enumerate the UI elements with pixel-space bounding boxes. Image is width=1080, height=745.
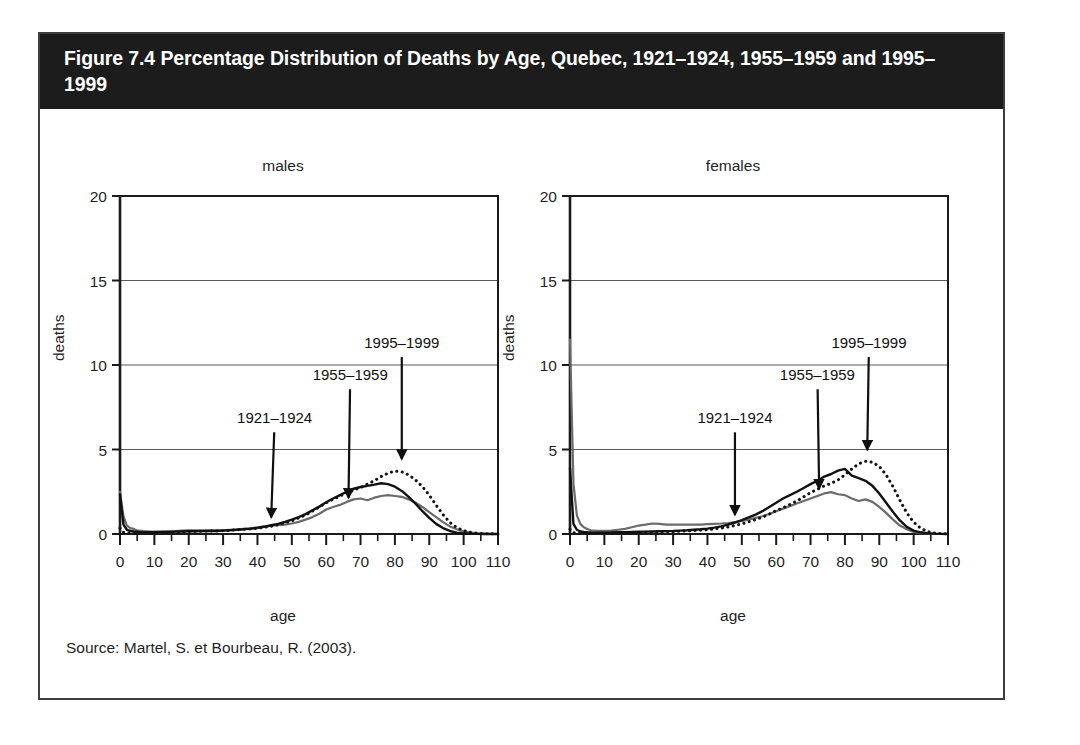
- y-tick-label: 5: [548, 442, 557, 459]
- title-banner: Figure 7.4 Percentage Distribution of De…: [40, 34, 1003, 109]
- y-tick-label: 20: [90, 188, 108, 205]
- x-tick-label: 10: [596, 553, 614, 570]
- x-tick-label: 110: [936, 553, 961, 570]
- x-tick-label: 90: [421, 553, 439, 570]
- source-note: Source: Martel, S. et Bourbeau, R. (2003…: [66, 639, 356, 657]
- x-tick-label: 70: [802, 553, 820, 570]
- chart-panel-females: females deaths age 051015200102030405060…: [508, 129, 958, 629]
- x-tick-label: 10: [146, 553, 164, 570]
- chart-title-males: males: [58, 157, 508, 175]
- x-tick-label: 30: [214, 553, 232, 570]
- annotation-label-1955-1959: 1955–1959: [780, 366, 855, 383]
- annotation-arrow-1955-1959: [818, 389, 820, 488]
- y-tick-label: 15: [540, 273, 557, 290]
- annotation-arrow-1955-1959: [349, 389, 351, 498]
- x-tick-label: 70: [352, 553, 370, 570]
- series-line-1955-1959: [120, 483, 498, 534]
- x-tick-label: 0: [116, 553, 125, 570]
- annotation-label-1995-1999: 1995–1999: [831, 334, 906, 351]
- y-tick-label: 0: [98, 526, 107, 543]
- x-tick-label: 100: [901, 553, 927, 570]
- y-tick-label: 20: [540, 188, 558, 205]
- figure-title: Figure 7.4 Percentage Distribution of De…: [64, 45, 964, 97]
- series-line-1921-1924: [570, 340, 948, 534]
- x-tick-label: 100: [451, 553, 477, 570]
- chart-title-females: females: [508, 157, 958, 175]
- figure-frame: Figure 7.4 Percentage Distribution of De…: [38, 32, 1005, 700]
- series-line-1995-1999: [120, 471, 498, 534]
- annotation-arrow-1995-1999: [867, 357, 869, 450]
- x-tick-label: 80: [836, 553, 854, 570]
- x-tick-label: 110: [486, 553, 511, 570]
- annotation-label-1921-1924: 1921–1924: [697, 409, 772, 426]
- annotation-label-1955-1959: 1955–1959: [313, 366, 388, 383]
- x-tick-label: 90: [871, 553, 889, 570]
- x-tick-label: 40: [249, 553, 267, 570]
- x-tick-label: 50: [733, 553, 751, 570]
- annotation-label-1921-1924: 1921–1924: [237, 409, 312, 426]
- x-tick-label: 30: [664, 553, 682, 570]
- x-tick-label: 20: [630, 553, 648, 570]
- annotation-label-1995-1999: 1995–1999: [364, 334, 439, 351]
- x-axis-label-females: age: [508, 607, 958, 625]
- figure-page: Figure 7.4 Percentage Distribution of De…: [0, 0, 1080, 745]
- plot-area-females: 0510152001020304050607080901001101921–19…: [508, 184, 958, 604]
- x-tick-label: 40: [699, 553, 717, 570]
- y-tick-label: 5: [98, 442, 107, 459]
- x-tick-label: 60: [768, 553, 786, 570]
- x-tick-label: 0: [566, 553, 575, 570]
- y-tick-label: 0: [548, 526, 557, 543]
- y-tick-label: 15: [90, 273, 107, 290]
- x-tick-label: 50: [283, 553, 301, 570]
- series-line-1955-1959: [570, 468, 948, 534]
- chart-panel-males: males deaths age 05101520010203040506070…: [58, 129, 508, 629]
- plot-area-males: 0510152001020304050607080901001101921–19…: [58, 184, 508, 604]
- y-tick-label: 10: [90, 357, 108, 374]
- x-tick-label: 20: [180, 553, 198, 570]
- series-line-1995-1999: [570, 461, 948, 534]
- annotation-arrow-1921-1924: [271, 432, 274, 517]
- x-axis-label-males: age: [58, 607, 508, 625]
- x-tick-label: 80: [386, 553, 404, 570]
- y-tick-label: 10: [540, 357, 558, 374]
- x-tick-label: 60: [318, 553, 336, 570]
